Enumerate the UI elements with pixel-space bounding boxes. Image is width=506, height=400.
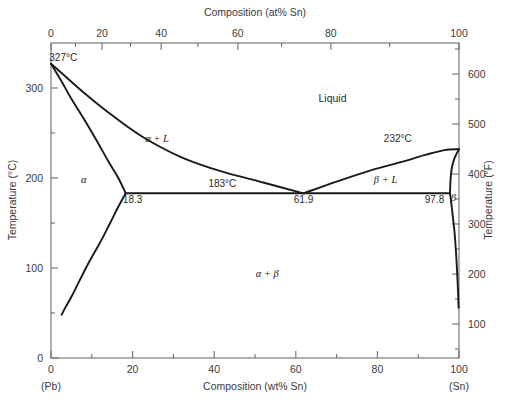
annotation-327-C: 327°C [49,52,77,63]
tick-label-bottom-80: 80 [372,363,384,375]
tick-label-top-100: 100 [450,27,468,39]
tick-label-bottom-20: 20 [127,363,139,375]
tick-label-left-300: 300 [25,82,43,94]
tick-label-right-100: 100 [468,318,486,330]
tick-label-left-0: 0 [37,352,43,364]
tick-label-top-40: 40 [155,27,167,39]
top-axis-title: Composition (at% Sn) [204,6,306,18]
region-label-β-+-L: β + L [373,174,398,185]
tick-label-top-60: 60 [232,27,244,39]
right-axis-title: Temperature (°F) [482,160,494,239]
region-label-β: β [450,192,457,203]
annotation-97.8: 97.8 [425,194,445,205]
tick-label-top-0: 0 [48,27,54,39]
tick-label-top-20: 20 [96,27,108,39]
tick-label-left-100: 100 [25,262,43,274]
tick-label-right-500: 500 [468,118,486,130]
region-label-Liquid: Liquid [319,92,347,104]
tick-label-top-80: 80 [325,27,337,39]
tick-label-bottom-100: 100 [450,363,468,375]
annotation-232-C: 232°C [384,133,412,144]
phase-diagram-figure: 020406080100 020406080100 0100200300 100… [0,0,506,400]
bottom-axis-title: Composition (wt% Sn) [203,380,307,392]
tick-label-right-600: 600 [468,68,486,80]
region-label-α: α [81,174,87,185]
annotation-183-C: 183°C [208,178,236,189]
tick-label-bottom-60: 60 [290,363,302,375]
left-endpoint-label: (Pb) [41,380,61,392]
region-label-α-+-β: α + β [256,268,280,279]
right-endpoint-label: (Sn) [449,380,469,392]
annotation-18.3: 18.3 [123,194,143,205]
left-axis-title: Temperature (°C) [6,160,18,241]
region-label-α-+-L: α + L [145,133,169,144]
tick-label-right-200: 200 [468,268,486,280]
tick-label-bottom-40: 40 [208,363,220,375]
tick-label-bottom-0: 0 [48,363,54,375]
annotation-61.9: 61.9 [294,194,314,205]
tick-label-left-200: 200 [25,172,43,184]
